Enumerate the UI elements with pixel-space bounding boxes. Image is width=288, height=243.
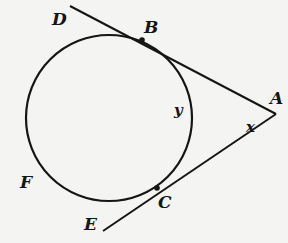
circle (26, 35, 192, 201)
label-F: F (19, 172, 34, 192)
label-A: A (268, 88, 283, 108)
tangent-line-DA (70, 6, 276, 114)
label-x: x (245, 118, 256, 136)
point-B (139, 37, 145, 43)
label-y: y (173, 101, 184, 119)
label-E: E (83, 214, 98, 234)
label-D: D (51, 9, 67, 29)
label-C: C (158, 192, 172, 212)
point-C (154, 185, 160, 191)
geometry-diagram: D B A x y F C E (0, 0, 288, 243)
label-B: B (143, 17, 158, 37)
